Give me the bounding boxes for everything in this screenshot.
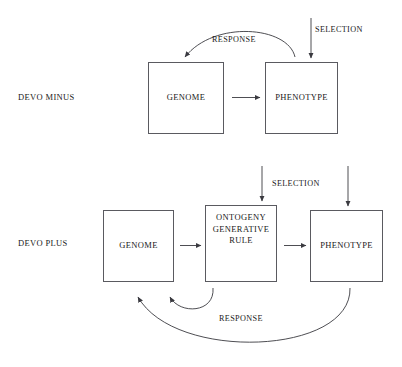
edge-label-selection-devo-minus: SELECTION bbox=[315, 25, 363, 34]
node-genome-devo-plus: GENOME bbox=[103, 210, 174, 282]
node-phenotype-devo-plus: PHENOTYPE bbox=[310, 210, 383, 282]
node-ontogeny-generative-rule-devo-plus: ONTOGENY GENERATIVE RULE bbox=[205, 205, 277, 282]
diagram-vector-layer bbox=[0, 0, 402, 367]
node-label-line-2: GENERATIVE bbox=[206, 224, 276, 236]
diagram-figure: DEVO MINUS DEVO PLUS GENOME PHENOTYPE RE… bbox=[0, 0, 402, 367]
node-genome-devo-minus: GENOME bbox=[148, 62, 224, 134]
edge-label-response-devo-minus: RESPONSE bbox=[212, 35, 256, 44]
node-label-line-3: RULE bbox=[206, 235, 276, 247]
node-label: GENOME bbox=[119, 240, 157, 252]
edge-label-selection-devo-plus: SELECTION bbox=[272, 179, 320, 188]
node-label: PHENOTYPE bbox=[275, 92, 328, 104]
row-label-devo-minus: DEVO MINUS bbox=[18, 92, 75, 102]
node-label: GENOME bbox=[167, 92, 205, 104]
row-label-devo-plus: DEVO PLUS bbox=[18, 238, 68, 248]
node-label: PHENOTYPE bbox=[320, 240, 373, 252]
edge-label-response-devo-plus: RESPONSE bbox=[219, 314, 263, 323]
arrow-response-plus-ontogeny bbox=[170, 288, 213, 309]
node-label-line-1: ONTOGENY bbox=[206, 212, 276, 224]
node-phenotype-devo-minus: PHENOTYPE bbox=[265, 62, 338, 134]
